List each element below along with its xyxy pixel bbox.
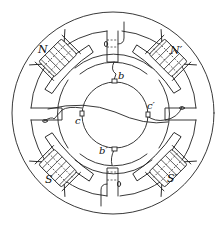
machine-diagram: N N′ S S′ b b′ c c′ (0, 0, 224, 229)
brush-label-b-prime: b′ (99, 146, 108, 156)
pole-label-S: S (45, 174, 53, 185)
brush-label-c: c (75, 116, 81, 126)
brush-c-prime (146, 112, 150, 117)
pole-label-S-prime: S′ (167, 173, 177, 184)
brush-label-b: b (118, 71, 124, 81)
brush-label-c-prime: c′ (147, 101, 155, 111)
machine-drawing (0, 0, 224, 229)
pole-S-prime (131, 131, 200, 200)
pole-label-N: N (38, 44, 48, 55)
brush-b-prime (112, 147, 117, 151)
armature-rotor-circle (82, 82, 148, 148)
pole-label-N-prime: N′ (170, 45, 182, 56)
brush-b (112, 79, 117, 83)
